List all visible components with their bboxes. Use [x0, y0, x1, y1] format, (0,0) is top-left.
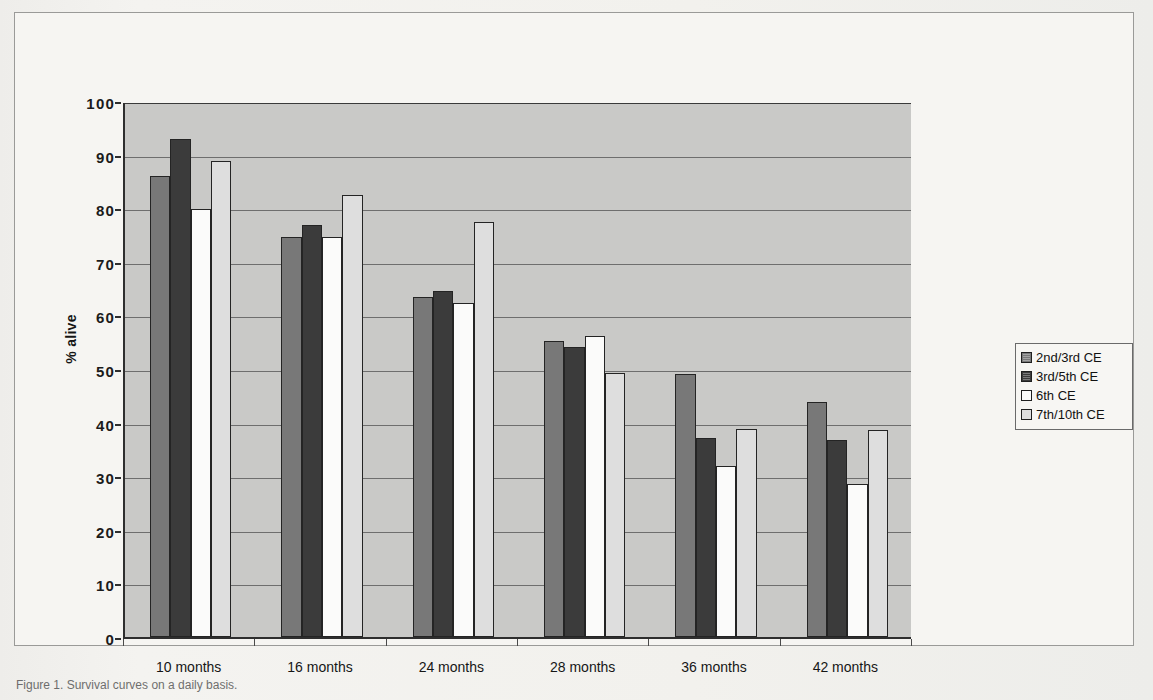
x-tick-mark	[254, 639, 255, 646]
plot-area	[123, 103, 911, 639]
x-axis-tick-labels: 10 months16 months24 months28 months36 m…	[123, 647, 911, 677]
bar	[716, 466, 736, 637]
bar	[413, 297, 433, 637]
bar-group	[544, 103, 625, 637]
legend-item[interactable]: 3rd/5th CE	[1021, 367, 1128, 386]
x-tick-mark	[517, 639, 518, 646]
figure-caption: Figure 1. Survival curves on a daily bas…	[16, 678, 1136, 692]
y-tick-label: 80	[96, 202, 115, 219]
bar	[191, 209, 211, 637]
y-tick-label: 90	[96, 148, 115, 165]
y-tick-label: 100	[86, 95, 115, 112]
bar	[302, 225, 322, 637]
legend-item[interactable]: 6th CE	[1021, 386, 1128, 405]
bar-group	[807, 103, 888, 637]
x-tick-label: 10 months	[156, 659, 221, 675]
x-tick-label: 28 months	[550, 659, 615, 675]
bar	[564, 347, 584, 638]
x-tick-label: 42 months	[813, 659, 878, 675]
y-tick-mark	[115, 102, 121, 104]
legend-item[interactable]: 2nd/3rd CE	[1021, 348, 1128, 367]
bar	[605, 373, 625, 637]
bar	[807, 402, 827, 637]
x-tick-label: 36 months	[681, 659, 746, 675]
y-tick-mark	[115, 209, 121, 211]
bar	[433, 291, 453, 637]
bar	[868, 430, 888, 637]
legend-item-label: 7th/10th CE	[1036, 407, 1105, 422]
legend-item-label: 2nd/3rd CE	[1036, 350, 1102, 365]
bar	[453, 303, 473, 637]
y-tick-label: 40	[96, 416, 115, 433]
x-tick-mark	[780, 639, 781, 646]
legend-swatch-light-gray-icon	[1021, 409, 1032, 420]
y-tick-mark	[115, 531, 121, 533]
y-tick-label: 10	[96, 577, 115, 594]
y-tick-mark	[115, 584, 121, 586]
bar	[322, 237, 342, 637]
bar	[544, 341, 564, 637]
bar	[211, 161, 231, 638]
x-tick-mark	[386, 639, 387, 646]
legend-item[interactable]: 7th/10th CE	[1021, 405, 1128, 424]
bar-group	[675, 103, 756, 637]
bar	[675, 374, 695, 637]
y-tick-mark	[115, 370, 121, 372]
bar	[847, 484, 867, 637]
bar-group	[281, 103, 362, 637]
y-tick-mark	[115, 424, 121, 426]
bar	[150, 176, 170, 637]
y-tick-label: 0	[105, 631, 115, 648]
chart-figure-frame: % alive 1009080706050403020100 10 months…	[14, 12, 1134, 646]
y-tick-label: 50	[96, 363, 115, 380]
chart-legend: 2nd/3rd CE3rd/5th CE6th CE7th/10th CE	[1015, 343, 1133, 430]
y-tick-label: 70	[96, 255, 115, 272]
x-tick-mark	[911, 639, 912, 646]
bar-group	[150, 103, 231, 637]
x-tick-label: 16 months	[287, 659, 352, 675]
y-tick-mark	[115, 263, 121, 265]
bar	[696, 438, 716, 637]
x-tick-label: 24 months	[419, 659, 484, 675]
legend-swatch-white-icon	[1021, 390, 1032, 401]
bar	[170, 139, 190, 637]
y-tick-mark	[115, 638, 121, 640]
y-axis-tick-labels: 1009080706050403020100	[65, 103, 115, 639]
bar	[281, 237, 301, 637]
figure-page: % alive 1009080706050403020100 10 months…	[0, 0, 1153, 700]
y-tick-mark	[115, 156, 121, 158]
bar-group	[413, 103, 494, 637]
legend-item-label: 6th CE	[1036, 388, 1076, 403]
legend-item-label: 3rd/5th CE	[1036, 369, 1098, 384]
bar	[342, 195, 362, 637]
y-tick-mark	[115, 477, 121, 479]
bar	[827, 440, 847, 637]
y-tick-label: 60	[96, 309, 115, 326]
legend-swatch-dark-gray-icon	[1021, 371, 1032, 382]
y-tick-label: 30	[96, 470, 115, 487]
bar	[474, 222, 494, 637]
y-tick-label: 20	[96, 523, 115, 540]
bar	[736, 429, 756, 638]
x-tick-mark	[648, 639, 649, 646]
bar	[585, 336, 605, 637]
bars-layer	[125, 103, 911, 637]
y-tick-mark	[115, 316, 121, 318]
x-tick-mark	[123, 639, 124, 646]
legend-swatch-medium-gray-icon	[1021, 352, 1032, 363]
